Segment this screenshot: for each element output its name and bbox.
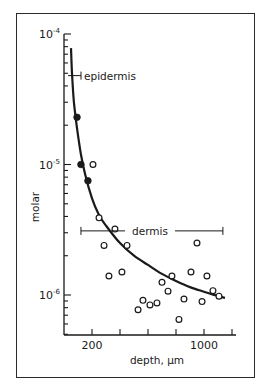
epidermis-label: epidermis [84,70,136,82]
fitted-curve-line [71,48,225,298]
dermis-point [106,273,112,279]
dermis-point [96,215,102,221]
epidermis-point [74,114,81,121]
y-axis-label: molar [29,191,41,222]
x-tick-label: 1000 [190,339,218,352]
y-tick-label: 10-5 [39,158,60,172]
dermis-point [216,293,222,299]
dermis-point [169,273,175,279]
y-tick-label: 10-6 [39,288,61,302]
epidermis-point [78,161,85,168]
dermis-point [194,240,200,246]
x-axis-label: depth, µm [130,354,184,366]
dermis-point [90,162,96,168]
dermis-point [119,269,125,275]
dermis-point [140,297,146,303]
scatter-chart: 10-410-510-62001000 epidermisdermis mola… [0,0,266,390]
dermis-point [204,273,210,279]
dermis-point [101,242,107,248]
dermis-point [147,302,153,308]
dermis-point [124,242,130,248]
y-tick-label: 10-4 [39,27,61,41]
annotations: epidermisdermis [68,70,223,237]
dermis-point [181,296,187,302]
dermis-point [135,307,141,313]
fitted-curve [71,48,225,298]
dermis-point [210,288,216,294]
dermis-point [154,300,160,306]
dermis-point [159,279,165,285]
epidermis-point [85,178,92,185]
dermis-point [165,288,171,294]
x-tick-label: 200 [82,339,103,352]
dermis-point [188,269,194,275]
dermis-point [199,299,205,305]
dermis-label: dermis [132,225,168,237]
dermis-point [176,317,182,323]
